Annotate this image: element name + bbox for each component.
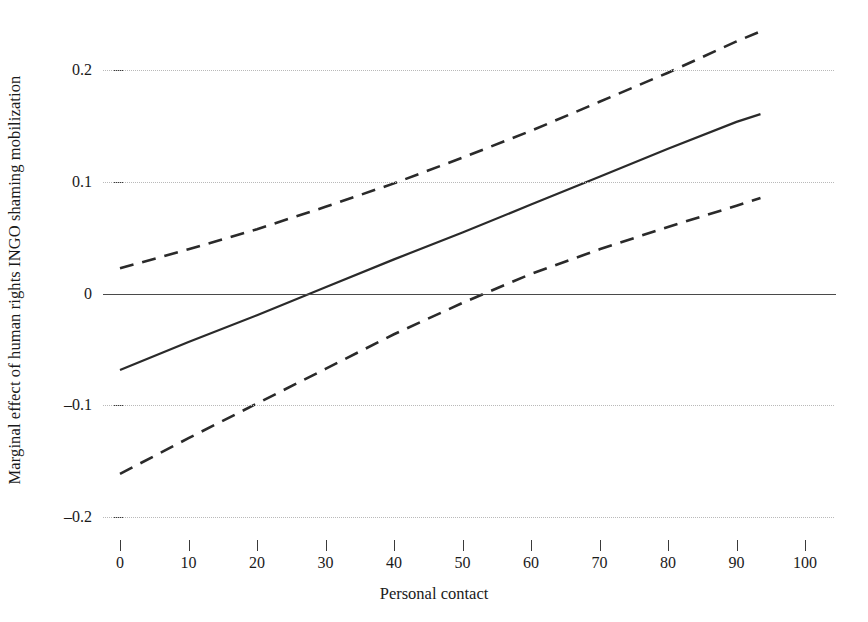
x-tick-label-80: 80 <box>638 554 698 572</box>
x-tick-mark-0 <box>120 540 121 551</box>
plot-area <box>103 0 836 540</box>
x-tick-label-50: 50 <box>433 554 493 572</box>
gridline-neg-0.2 <box>103 517 834 519</box>
x-tick-mark-30 <box>326 540 327 551</box>
x-tick-mark-90 <box>737 540 738 551</box>
gridline-0.2 <box>103 70 834 72</box>
x-tick-mark-50 <box>463 540 464 551</box>
gridline-0.1 <box>103 182 834 184</box>
gridline-neg-0.1 <box>103 405 834 407</box>
y-tick-label-2: 0 <box>22 285 92 303</box>
x-tick-mark-70 <box>600 540 601 551</box>
x-tick-label-0: 0 <box>90 554 150 572</box>
x-tick-mark-10 <box>189 540 190 551</box>
x-tick-label-70: 70 <box>570 554 630 572</box>
x-tick-label-100: 100 <box>775 554 835 572</box>
x-tick-label-30: 30 <box>296 554 356 572</box>
x-tick-label-10: 10 <box>159 554 219 572</box>
x-tick-mark-60 <box>531 540 532 551</box>
x-axis-title: Personal contact <box>0 584 868 604</box>
y-tick-label-3: –0.1 <box>22 396 92 414</box>
x-tick-label-90: 90 <box>707 554 767 572</box>
zero-reference-line <box>103 294 836 295</box>
y-axis-tick-labels: 0.2 0.1 0 –0.1 –0.2 <box>22 0 92 622</box>
x-tick-label-20: 20 <box>227 554 287 572</box>
y-tick-label-4: –0.2 <box>22 508 92 526</box>
y-tick-label-0: 0.2 <box>22 61 92 79</box>
y-tick-label-1: 0.1 <box>22 173 92 191</box>
marginal-effects-chart: Marginal effect of human rights INGO sha… <box>0 0 868 622</box>
x-tick-label-60: 60 <box>501 554 561 572</box>
x-tick-mark-100 <box>805 540 806 551</box>
x-tick-mark-80 <box>668 540 669 551</box>
x-axis: 0102030405060708090100 Personal contact <box>0 540 868 622</box>
x-tick-mark-40 <box>394 540 395 551</box>
series-lines <box>103 0 836 540</box>
x-tick-mark-20 <box>257 540 258 551</box>
x-tick-label-40: 40 <box>364 554 424 572</box>
series-line-2 <box>120 198 760 474</box>
